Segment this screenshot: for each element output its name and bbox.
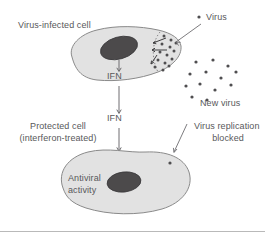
virus-replication-blocked-leader-line xyxy=(173,124,187,153)
virus-leader-line xyxy=(176,24,201,46)
infected-cell-label: Virus-infected cell xyxy=(18,20,91,31)
virus-label: Virus xyxy=(206,12,227,23)
virus-legend-dot xyxy=(197,15,200,18)
blocked-virion xyxy=(168,161,171,164)
antiviral-activity-label-line2: activity xyxy=(68,185,96,196)
ifn-intracellular-label: IFN xyxy=(107,71,122,82)
virus-replication-blocked-label-line1: Virus replication xyxy=(194,121,260,132)
protected-cell-label-line2: (interferon-treated) xyxy=(8,133,108,144)
extracellular-virion-field xyxy=(184,58,237,101)
diagram-canvas xyxy=(0,0,265,232)
ifn-extracellular-label: IFN xyxy=(107,113,122,124)
antiviral-activity-label-line1: Antiviral xyxy=(68,173,101,184)
new-virus-label: New virus xyxy=(200,98,240,109)
interferon-antiviral-diagram: Virus-infected cell Virus New virus IFN … xyxy=(0,0,265,232)
protected-cell-label-line1: Protected cell xyxy=(8,121,108,132)
virus-replication-blocked-label-line2: blocked xyxy=(194,133,262,144)
